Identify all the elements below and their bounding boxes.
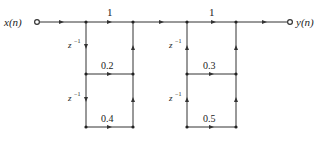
arrow-up-icon [131, 45, 135, 50]
arrow-right-icon [209, 72, 214, 76]
svg-text:z: z [168, 40, 173, 50]
input-label: x(n) [3, 16, 22, 29]
arrow-up-icon [185, 97, 189, 102]
svg-text:−1: −1 [74, 38, 80, 44]
s2-coef-2: 0.5 [203, 113, 216, 124]
output-terminal [288, 20, 293, 25]
svg-text:−1: −1 [175, 38, 181, 44]
s1-coef-1: 0.2 [101, 60, 114, 71]
s1-delay-2-label: z −1 [67, 91, 80, 103]
s1-delay-1-label: z −1 [67, 38, 80, 50]
arrow-up-icon [185, 45, 189, 50]
s2-delay-1-label: z −1 [168, 38, 181, 50]
arrow-right-icon [107, 72, 112, 76]
arrow-right-icon [209, 125, 214, 129]
arrow-right-icon [59, 20, 64, 24]
svg-text:z: z [67, 93, 72, 103]
svg-text:z: z [67, 40, 72, 50]
s2-forward-gain: 1 [209, 6, 215, 18]
arrow-down-icon [84, 44, 88, 49]
arrow-right-icon [159, 20, 164, 24]
arrow-up-icon [234, 97, 238, 102]
svg-text:z: z [168, 93, 173, 103]
output-label: y(n) [295, 16, 314, 29]
svg-text:−1: −1 [175, 91, 181, 97]
arrow-right-icon [211, 20, 216, 24]
arrow-up-icon [131, 97, 135, 102]
s2-coef-1: 0.3 [203, 60, 216, 71]
svg-text:−1: −1 [74, 91, 80, 97]
arrow-down-icon [84, 97, 88, 102]
s1-coef-2: 0.4 [101, 113, 114, 124]
arrow-right-icon [107, 20, 112, 24]
s2-delay-2-label: z −1 [168, 91, 181, 103]
arrow-right-icon [107, 125, 112, 129]
arrow-up-icon [234, 45, 238, 50]
arrow-right-icon [262, 20, 267, 24]
s1-forward-gain: 1 [107, 6, 113, 18]
signal-flow-diagram: x(n) y(n) 1 1 0.2 0.4 0.3 0.5 z −1 z −1 … [0, 0, 329, 141]
input-terminal [35, 20, 40, 25]
